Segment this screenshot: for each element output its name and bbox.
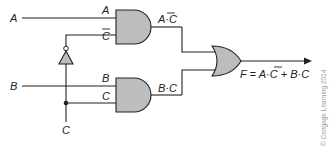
logic-circuit-diagram: A A C A·C B B C B·C C F = A·C + B·C © Ce…: [0, 0, 330, 149]
input-label-c: C: [62, 124, 70, 136]
and-gate-1: [116, 10, 151, 44]
input-label-a: A: [9, 12, 17, 24]
and2-input-c-label: C: [102, 90, 110, 102]
and2-output-label: B·C: [158, 82, 177, 94]
output-equation: F = A·C + B·C: [240, 68, 309, 80]
wire-to-or-top: [182, 27, 216, 52]
and1-input-a-label: A: [101, 4, 109, 16]
not-gate: [59, 51, 73, 64]
and1-input-cbar-label: C: [102, 30, 110, 42]
input-label-b: B: [10, 80, 17, 92]
or-gate: [212, 46, 241, 76]
junction-dot: [64, 101, 69, 106]
copyright-text: © Cengage Learning 2014: [320, 69, 328, 146]
and-gate-2: [116, 78, 151, 112]
wire-to-or-bottom: [182, 70, 216, 95]
and1-output-label: A·C: [157, 13, 177, 25]
arrow-head-icon: [304, 58, 312, 65]
and2-input-b-label: B: [102, 72, 109, 84]
